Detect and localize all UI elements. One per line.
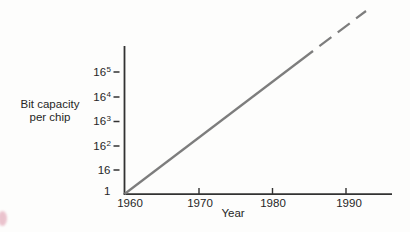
superscript: 5 <box>107 65 111 74</box>
y-tick-label-1: 1 <box>69 185 111 199</box>
capacity-trend-line-solid <box>125 51 314 194</box>
superscript: 2 <box>107 139 111 148</box>
y-tick-label-16e2: 162 <box>69 140 111 154</box>
x-tick-label-1960: 1960 <box>110 197 150 210</box>
superscript: 4 <box>107 90 111 99</box>
x-tick-label-1980: 1980 <box>253 197 293 210</box>
superscript: 3 <box>107 114 111 123</box>
y-tick-label-16e3: 163 <box>69 115 111 129</box>
y-tick-label-16: 16 <box>69 164 111 178</box>
x-tick-label-1990: 1990 <box>329 197 369 210</box>
capacity-trend-line-dashed-projection <box>313 11 366 51</box>
y-tick-marks <box>114 72 120 170</box>
x-tick-marks <box>199 188 346 194</box>
bit-capacity-chart: Bit capacity per chip 165 164 163 162 16… <box>0 0 410 232</box>
y-tick-label-16e5: 165 <box>69 66 111 80</box>
x-axis-title: Year <box>213 207 253 220</box>
y-tick-label-16e4: 164 <box>69 91 111 105</box>
